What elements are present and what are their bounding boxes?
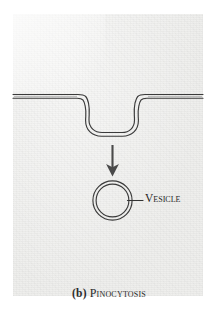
vesicle-outer-ring [93, 181, 132, 220]
plasma-membrane-outer-leaflet [13, 95, 203, 133]
plasma-membrane-inner-leaflet [13, 98, 203, 136]
vesicle-annotation-label: Vesicle [145, 192, 180, 204]
pinocytosis-artwork [0, 0, 218, 310]
figure-caption: (b)Pinocytosis [0, 286, 218, 301]
pinocytosis-figure: Vesicle (b)Pinocytosis [0, 0, 218, 310]
figure-caption-text: Pinocytosis [90, 286, 146, 300]
vesicle-circle [93, 181, 132, 220]
vesicle-inner-ring [96, 184, 129, 217]
figure-caption-letter: (b) [72, 287, 87, 299]
downward-process-arrow [106, 145, 119, 177]
